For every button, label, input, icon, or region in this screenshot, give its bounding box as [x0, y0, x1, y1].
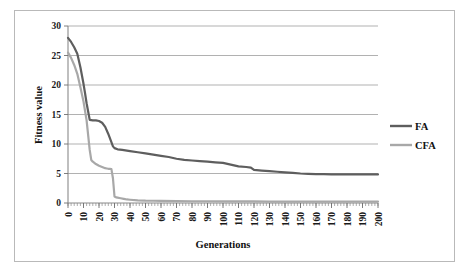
x-tick-label: 160	[312, 212, 322, 227]
x-tick-label: 150	[296, 212, 306, 227]
x-tick-label: 200	[374, 212, 384, 227]
x-tick-label: 170	[327, 212, 337, 227]
x-tick-label: 10	[79, 212, 89, 222]
y-tick-label: 30	[52, 21, 62, 31]
x-tick-label: 130	[265, 212, 275, 227]
x-tick-label: 100	[219, 212, 229, 227]
x-tick-label: 50	[141, 212, 151, 222]
x-tick-label: 90	[203, 212, 213, 222]
x-tick-label: 30	[110, 212, 120, 222]
x-axis-ticks	[68, 203, 378, 208]
x-tick-label: 60	[157, 212, 167, 222]
chart-legend: FACFA	[390, 121, 436, 151]
legend-label-fa: FA	[415, 121, 429, 132]
x-tick-label: 140	[281, 212, 291, 227]
x-tick-label: 120	[250, 212, 260, 227]
y-tick-label: 15	[52, 110, 62, 120]
series-line-cfa	[68, 53, 378, 202]
chart-figure: 051015202530 010203040506070809010011012…	[0, 0, 468, 277]
y-tick-label: 25	[52, 51, 62, 61]
gridlines	[68, 26, 378, 174]
series-line-fa	[68, 38, 378, 175]
line-chart: 051015202530 010203040506070809010011012…	[0, 0, 468, 277]
x-tick-label: 40	[126, 212, 136, 222]
y-tick-label: 20	[52, 80, 62, 90]
y-axis-tick-labels: 051015202530	[52, 21, 62, 208]
x-tick-label: 80	[188, 212, 198, 222]
y-axis-title: Fitness value	[33, 86, 44, 144]
x-tick-label: 190	[358, 212, 368, 227]
x-tick-label: 0	[64, 212, 74, 217]
y-tick-label: 0	[56, 198, 61, 208]
legend-label-cfa: CFA	[415, 140, 436, 151]
data-series	[68, 38, 378, 202]
x-tick-label: 70	[172, 212, 182, 222]
x-axis-title: Generations	[196, 239, 251, 250]
y-tick-label: 10	[52, 139, 62, 149]
x-tick-label: 180	[343, 212, 353, 227]
y-tick-label: 5	[56, 169, 61, 179]
x-axis-tick-labels: 0102030405060708090100110120130140150160…	[64, 212, 384, 227]
x-tick-label: 20	[95, 212, 105, 222]
x-tick-label: 110	[234, 212, 244, 226]
